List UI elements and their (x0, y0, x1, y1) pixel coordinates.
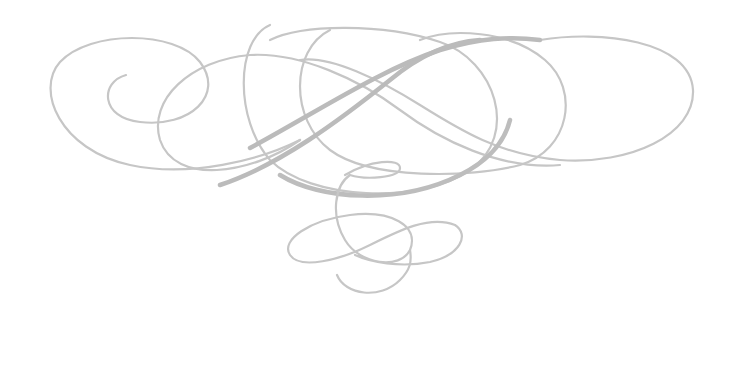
flourish-icon (0, 0, 730, 365)
